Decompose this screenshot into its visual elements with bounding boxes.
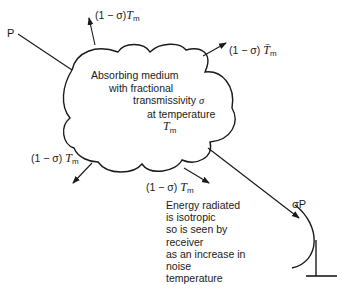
medium-line-3: transmissivity σ [133,94,215,108]
received-power-text: σP [292,198,306,210]
note-line-4: receiver [166,236,245,248]
emission-label-left-sub: m [72,157,79,166]
note-line-3: so is seen by [166,223,245,235]
emission-label-right-var: T̄ [263,43,270,57]
receiver-antenna-icon [292,205,337,276]
note-line-1: Energy radiated [166,199,245,211]
medium-line-5: Tm [163,120,215,138]
medium-line-1: Absorbing medium [91,69,215,82]
emission-label-right-prefix: (1 − σ) [229,44,260,56]
isotropic-radiation-note: Energy radiated is isotropic so is seen … [166,199,245,284]
medium-description: Absorbing medium with fractional transmi… [91,69,215,138]
emission-label-top-sub: m [133,14,140,23]
emission-arrow-right [203,43,226,56]
source-power-label: P [7,27,14,39]
emission-label-top-var: T [126,8,133,22]
source-power-text: P [7,27,14,39]
emission-label-left: (1 − σ) Tm [31,152,79,168]
emission-label-top: (1 − σ)Tm [95,9,140,25]
note-line-6: noise [166,260,245,272]
received-power-label: σP [292,198,306,210]
note-line-7: temperature [166,272,245,284]
emission-label-bottom-sub: m [187,186,194,195]
emission-label-left-var: T [65,151,72,165]
medium-line-2: with fractional [109,82,215,95]
emission-label-bottom-var: T [180,180,187,194]
note-line-5: as an increase in [166,248,245,260]
medium-line-4: at temperature [147,108,215,121]
emission-label-top-prefix: (1 − σ) [95,9,126,21]
incident-beam-line [18,34,72,70]
emission-label-bottom-prefix: (1 − σ) [146,181,177,193]
emission-label-right: (1 − σ) T̄m [229,44,277,60]
note-line-2: is isotropic [166,211,245,223]
emission-label-right-sub: m [270,49,277,58]
emission-label-left-prefix: (1 − σ) [31,152,62,164]
emission-label-bottom: (1 − σ) Tm [146,181,194,197]
